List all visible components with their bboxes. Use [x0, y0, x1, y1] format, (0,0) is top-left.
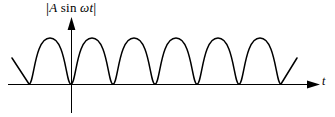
y-axis-arrowhead [68, 17, 76, 30]
y-axis-label: |A sin ωt| [46, 1, 96, 16]
x-axis-arrowhead [307, 81, 320, 89]
x-axis-label: t [322, 75, 325, 87]
plot-canvas [0, 0, 335, 117]
rectified-sine-curve [12, 38, 297, 84]
rectified-sine-figure: |A sin ωt| t [0, 0, 335, 117]
y-axis-label-function: sin [61, 0, 77, 15]
y-axis-label-close-bar: | [93, 0, 96, 16]
